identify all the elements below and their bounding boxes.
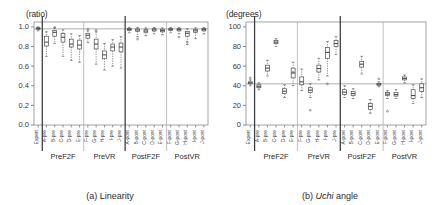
caption-b-prefix: (b)	[302, 191, 313, 201]
x-tick-label: A-post	[124, 129, 130, 144]
caption-a-prefix: (a)	[86, 191, 97, 201]
y-tick-label: 0.2	[19, 101, 29, 110]
y-tick-label: 0.0	[19, 120, 29, 129]
group-label: PreVR	[308, 152, 331, 161]
x-tick-label: F-pre	[83, 130, 89, 142]
x-tick-label: D-post	[149, 129, 155, 144]
x-tick-label: F-pre	[297, 130, 303, 142]
box-iqr	[300, 77, 304, 85]
panel-uchi-angle: (degrees) 020406080100ExpertA-preB-preC-…	[220, 0, 440, 205]
x-tick-label: D-post	[365, 129, 371, 144]
group-label: PreF2F	[263, 152, 288, 161]
y-tick-label: 0	[237, 120, 241, 129]
x-tick-label: I-post	[408, 129, 414, 142]
x-tick-label: A-post	[340, 129, 346, 144]
x-tick-label: J-post	[417, 129, 423, 143]
x-tick-label: H-pre	[99, 130, 105, 143]
x-tick-label: A-pre	[254, 130, 260, 142]
group-label: PostVR	[175, 152, 201, 161]
y-tick-label: 0.6	[19, 62, 29, 71]
x-tick-label: G-post	[391, 129, 397, 145]
y-tick-label: 80	[233, 42, 241, 51]
x-tick-label: C-post	[141, 129, 147, 144]
figure-container: (ratio) 0.00.20.40.60.81.0ExpertA-preB-p…	[0, 0, 440, 205]
box-iqr	[411, 90, 415, 99]
caption-a: (a) Linearity	[0, 191, 220, 201]
panel-linearity: (ratio) 0.00.20.40.60.81.0ExpertA-preB-p…	[0, 0, 220, 205]
x-tick-label: J-post	[199, 129, 205, 143]
group-label: PostF2F	[132, 152, 161, 161]
x-tick-label: Expert	[245, 129, 251, 144]
box-iqr	[86, 33, 90, 38]
x-tick-label: I-pre	[322, 130, 328, 141]
group-label: PreVR	[93, 152, 116, 161]
boxplot-svg-linearity: 0.00.20.40.60.81.0ExpertA-preB-preC-preD…	[0, 0, 220, 180]
x-tick-label: I-pre	[108, 130, 114, 141]
box-iqr	[45, 36, 49, 46]
x-tick-label: F-post	[382, 129, 388, 144]
caption-a-text: Linearity	[100, 191, 134, 201]
boxplot-svg-uchi-angle: 020406080100ExpertA-preB-preC-preD-preE-…	[220, 0, 440, 180]
y-tick-label: 0.8	[19, 42, 29, 51]
x-tick-label: Expert	[33, 129, 39, 144]
x-tick-label: E-pre	[288, 130, 294, 142]
x-tick-label: G-pre	[91, 130, 97, 143]
x-tick-label: I-post	[191, 129, 197, 142]
group-label: PostF2F	[348, 152, 377, 161]
caption-b-italic: Uchi	[315, 191, 333, 201]
x-tick-label: J-pre	[331, 130, 337, 142]
x-tick-label: B-post	[348, 129, 354, 144]
x-tick-label: E-pre	[75, 130, 81, 142]
x-tick-label: B-post	[133, 129, 139, 144]
x-tick-label: G-post	[174, 129, 180, 145]
x-tick-label: B-pre	[50, 130, 56, 142]
box-iqr	[185, 31, 189, 36]
y-tick-label: 1.0	[19, 22, 29, 31]
box-iqr	[69, 39, 73, 47]
y-tick-label: 100	[228, 22, 241, 31]
x-tick-label: H-post	[400, 129, 406, 144]
x-tick-label: A-pre	[41, 130, 47, 142]
group-label: PreF2F	[50, 152, 75, 161]
x-tick-label: C-pre	[271, 130, 277, 143]
x-tick-label: H-pre	[314, 130, 320, 143]
y-tick-label: 0.4	[19, 81, 29, 90]
caption-b: (b) Uchi angle	[220, 191, 440, 201]
box-iqr	[53, 30, 57, 36]
x-tick-label: H-post	[182, 129, 188, 144]
x-tick-label: E-post	[157, 129, 163, 144]
y-tick-label: 40	[233, 81, 241, 90]
y-tick-label: 20	[233, 101, 241, 110]
x-tick-label: D-pre	[280, 130, 286, 143]
box-iqr	[78, 40, 82, 49]
x-tick-label: B-pre	[262, 130, 268, 142]
x-tick-label: E-post	[374, 129, 380, 144]
box-iqr	[61, 33, 65, 42]
x-tick-label: G-pre	[305, 130, 311, 143]
x-tick-label: J-pre	[116, 130, 122, 142]
box-iqr	[119, 43, 123, 52]
x-tick-label: C-post	[357, 129, 363, 144]
x-tick-label: D-pre	[66, 130, 72, 143]
x-tick-label: F-post	[166, 129, 172, 144]
group-label: PostVR	[392, 152, 418, 161]
box-iqr	[325, 48, 329, 59]
x-tick-label: C-pre	[58, 130, 64, 143]
y-tick-label: 60	[233, 62, 241, 71]
caption-b-text: angle	[336, 191, 358, 201]
box-iqr	[111, 44, 115, 51]
